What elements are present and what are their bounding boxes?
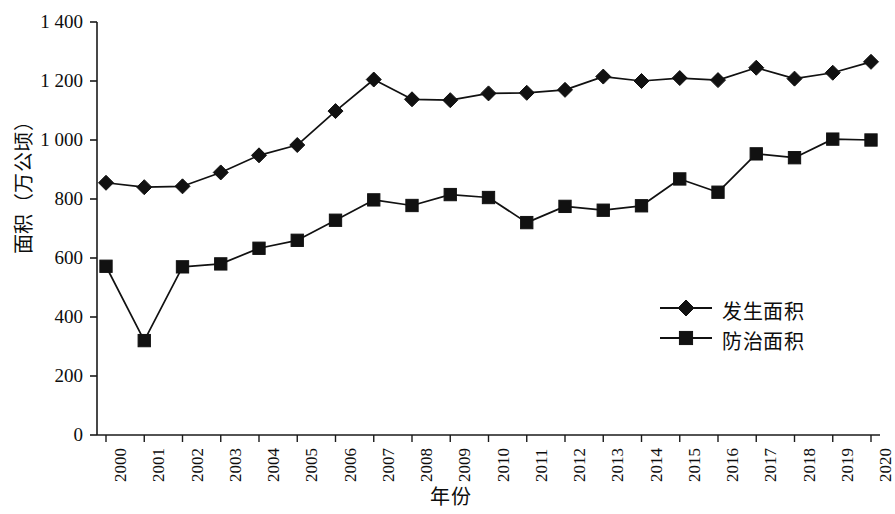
x-tick-label: 2018 [801, 448, 818, 482]
x-tick-label: 2004 [265, 448, 282, 482]
x-tick-label: 2013 [609, 448, 626, 482]
x-tick-label: 2003 [227, 448, 244, 482]
legend-entry-label: 防治面积 [722, 326, 804, 355]
x-tick-label: 2014 [648, 448, 665, 482]
y-tick-label: 200 [0, 366, 83, 385]
x-tick-label: 2019 [839, 448, 856, 482]
x-tick-label: 2016 [724, 448, 741, 482]
x-tick-label: 2015 [686, 448, 703, 482]
legend-entry-label: 发生面积 [722, 296, 804, 325]
x-tick-label: 2020 [877, 448, 894, 482]
x-tick-label: 2010 [495, 448, 512, 482]
x-tick-label: 2017 [762, 448, 779, 482]
x-tick-label: 2011 [533, 449, 550, 482]
y-tick-label: 0 [0, 425, 83, 444]
legend-markers [660, 300, 712, 345]
y-tick-label: 1 200 [0, 71, 83, 90]
x-tick-label: 2000 [112, 448, 129, 482]
x-tick-label: 2007 [380, 448, 397, 482]
x-tick-label: 2008 [418, 448, 435, 482]
y-tick-label: 400 [0, 307, 83, 326]
x-tick-label: 2009 [456, 448, 473, 482]
axis-ticks [90, 22, 871, 442]
x-tick-label: 2012 [571, 448, 588, 482]
y-tick-label: 800 [0, 189, 83, 208]
y-tick-label: 1 000 [0, 130, 83, 149]
y-tick-label: 600 [0, 248, 83, 267]
y-tick-label: 1 400 [0, 12, 83, 31]
x-tick-label: 2001 [150, 448, 167, 482]
x-tick-label: 2002 [189, 448, 206, 482]
x-tick-label: 2006 [342, 448, 359, 482]
x-tick-label: 2005 [303, 448, 320, 482]
axes [97, 22, 880, 435]
